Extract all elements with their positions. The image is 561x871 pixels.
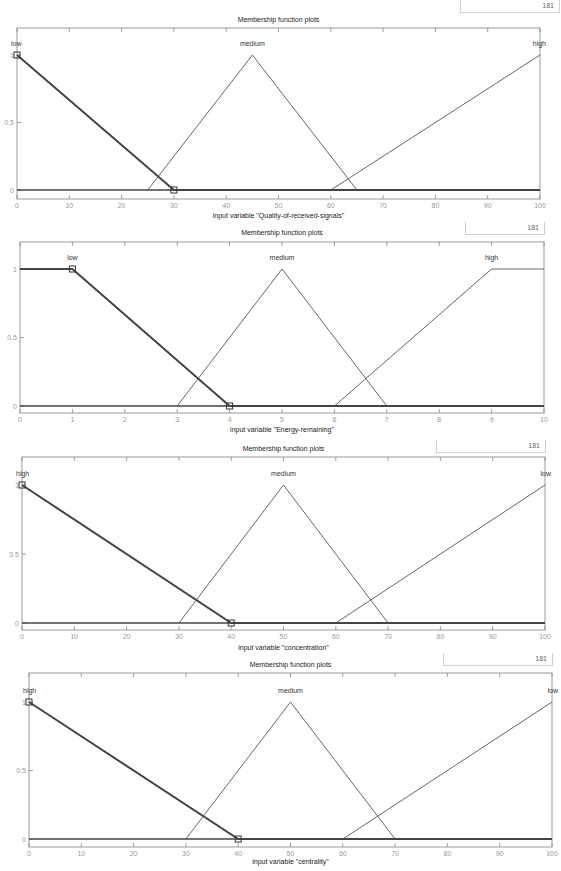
mf-chart-svg: Membership function plots010203040506070… [0,0,561,871]
mf-label-high: high [23,687,36,695]
x-tick-label: 10 [77,850,85,857]
plot-frame [29,673,552,847]
mf-curve-low[interactable] [343,702,552,839]
y-tick-label: 1 [22,699,26,706]
plot-points-field[interactable]: 181 [443,653,553,666]
mf-curve-high[interactable] [29,702,552,839]
x-tick-label: 0 [27,850,31,857]
mf-label-medium: medium [278,687,303,694]
mf-label-low: low [547,687,558,694]
plot-title: Membership function plots [250,661,332,669]
mf-curve-medium[interactable] [186,702,395,839]
x-tick-label: 50 [287,850,295,857]
x-tick-label: 30 [182,850,190,857]
y-tick-label: 0 [22,836,26,843]
x-tick-label: 100 [546,850,558,857]
x-tick-label: 20 [130,850,138,857]
y-tick-label: 0.5 [16,767,26,774]
x-axis-label: input variable "centrality" [252,858,329,866]
x-tick-label: 80 [444,850,452,857]
x-tick-label: 60 [339,850,347,857]
x-tick-label: 90 [496,850,504,857]
x-tick-label: 70 [391,850,399,857]
x-tick-label: 40 [234,850,242,857]
